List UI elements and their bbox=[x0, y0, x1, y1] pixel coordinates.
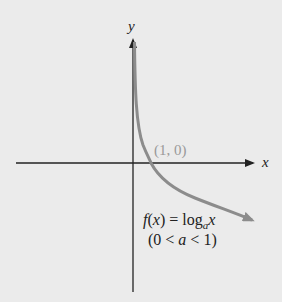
log-curve bbox=[135, 42, 253, 220]
function-label: f(x) = logax bbox=[143, 211, 215, 231]
x-axis-label: x bbox=[262, 154, 269, 171]
graph-canvas bbox=[0, 0, 282, 302]
condition-label: (0 < a < 1) bbox=[148, 231, 217, 249]
y-axis-label: y bbox=[128, 18, 135, 35]
point-label: (1, 0) bbox=[154, 142, 187, 159]
